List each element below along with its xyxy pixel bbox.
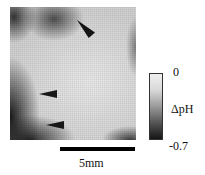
ph-map-image <box>10 7 136 140</box>
arrowhead-top-shape <box>77 20 95 38</box>
colorbar-min-label: -0.7 <box>169 140 188 152</box>
colorbar <box>149 73 163 140</box>
colorbar-quantity-label: ΔpH <box>171 103 193 115</box>
figure: 0 ΔpH -0.7 5mm <box>0 0 205 175</box>
colorbar-max-label: 0 <box>173 66 179 78</box>
arrowhead-bottom-icon <box>46 121 64 129</box>
scale-bar-label: 5mm <box>79 157 104 169</box>
scale-bar <box>60 147 135 151</box>
arrowhead-middle-icon <box>39 90 57 98</box>
